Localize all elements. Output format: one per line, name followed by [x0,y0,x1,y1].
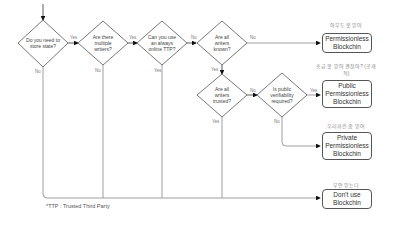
outcome-caption-no-blockchain: 무언 믿는다 [320,181,372,188]
outcome-caption-permissionless: 아무도 못 믿어 [320,21,372,28]
outcome-caption-private: 우리끼린 좀 믿어 [320,122,372,129]
decision-text-ttp: Can you use an always online TTP? [147,34,177,52]
decision-text-multiple-writers: Are there multiple writers? [89,34,117,52]
outcome-permissionless-blockchain: Permissionless Blockchin [322,33,372,53]
outcome-public-permissioned-blockchain: Public Permissionless Blockchin [322,80,372,108]
edge-label-yes: Yes [129,35,136,40]
edge-label-no: No [250,35,256,40]
decision-text-writers-known: Are all writers known? [211,34,233,52]
edge-label-yes: Yes [212,119,219,124]
decision-text-writers-trusted: Are all writers trusted? [211,86,233,104]
outcome-private-permissioned-blockchain: Private Permissionless Blockchin [322,132,372,160]
edge-label-yes: Yes [154,68,161,73]
edge-label-no: No [95,68,101,73]
edge-label-yes: Yes [310,88,317,93]
edge-label-yes: Yes [70,35,77,40]
edge-label-no: No [35,69,41,74]
footnote: *TTP : Trusted Third Party [46,203,110,209]
decision-text-public-verifiability: Is public verifiability required? [266,86,298,104]
decision-text-store-state: Do you need to store state? [26,37,60,49]
edge-label-no: No [191,35,197,40]
edge-label-no: No [274,119,280,124]
edge-label-yes: Yes [211,67,218,72]
outcome-dont-use-blockchain: Don't use Blockchin [322,189,372,209]
edge-label-no: No [250,88,256,93]
outcome-caption-public: 조금 못 믿어 괜찮아? (공개적) [316,62,376,76]
